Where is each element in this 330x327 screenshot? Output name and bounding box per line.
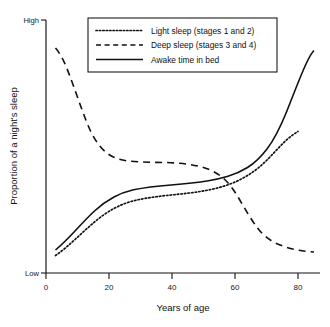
legend-label-deep-sleep: Deep sleep (stages 3 and 4) xyxy=(151,40,256,50)
y-axis-low-label: Low xyxy=(25,269,39,278)
y-axis-title: Proportion of a night's sleep xyxy=(8,87,19,204)
x-axis-ticks xyxy=(46,273,298,279)
x-tick-label-40: 40 xyxy=(168,283,177,292)
y-axis-high-label: High xyxy=(23,16,39,25)
x-tick-label-80: 80 xyxy=(294,283,303,292)
sleep-architecture-chart: High Low 0 20 40 60 80 Years of age Prop… xyxy=(0,0,330,327)
x-tick-label-60: 60 xyxy=(231,283,240,292)
series-light-sleep-curve xyxy=(56,132,299,256)
legend-label-light-sleep: Light sleep (stages 1 and 2) xyxy=(151,26,255,36)
x-axis-title: Years of age xyxy=(157,302,210,313)
series-awake-time-curve xyxy=(56,51,315,251)
chart-legend: Light sleep (stages 1 and 2) Deep sleep … xyxy=(88,18,277,72)
x-axis-tick-labels: 0 20 40 60 80 xyxy=(44,283,303,292)
chart-canvas: High Low 0 20 40 60 80 Years of age Prop… xyxy=(0,0,330,327)
x-tick-label-20: 20 xyxy=(105,283,114,292)
legend-label-awake-time: Awake time in bed xyxy=(151,55,220,65)
x-tick-label-0: 0 xyxy=(44,283,49,292)
